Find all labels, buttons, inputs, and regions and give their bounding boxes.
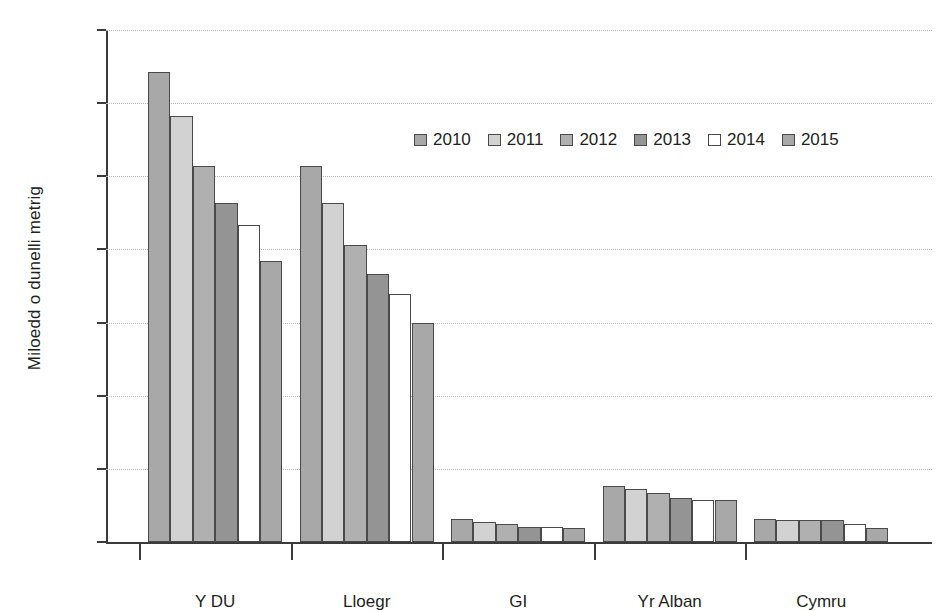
y-tick-mark [97, 322, 106, 324]
bar [300, 166, 322, 542]
y-axis-line [106, 30, 108, 542]
legend-swatch-icon [488, 134, 501, 146]
y-tick-mark [97, 102, 106, 104]
y-tick-mark [97, 175, 106, 177]
bar-chart: Miloedd o dunelli metrig 140001200010000… [0, 0, 938, 612]
legend-label: 2011 [507, 131, 544, 148]
legend-label: 2013 [653, 131, 691, 148]
x-axis-category-label: Yr Alban [638, 592, 702, 612]
y-axis-title: Miloedd o dunelli metrig [25, 118, 45, 438]
bar [866, 528, 888, 542]
bar [776, 520, 798, 542]
bar [322, 203, 344, 542]
x-axis-category-label: Lloegr [343, 592, 390, 612]
legend-item: 2010 [414, 131, 471, 148]
bar [754, 519, 776, 542]
bar [799, 520, 821, 542]
legend-swatch-icon [634, 134, 647, 146]
legend-label: 2010 [433, 131, 471, 148]
gridline [106, 30, 932, 31]
bar [215, 203, 237, 542]
legend-item: 2013 [634, 131, 691, 148]
legend-swatch-icon [414, 134, 427, 146]
legend-item: 2014 [708, 131, 765, 148]
x-axis-category-label: Cymru [796, 592, 846, 612]
y-tick-mark [97, 29, 106, 31]
legend-item: 2015 [782, 131, 839, 148]
bar [367, 274, 389, 542]
legend-swatch-icon [782, 134, 795, 146]
bar [692, 500, 714, 542]
x-tick-mark [442, 544, 444, 560]
bar [193, 166, 215, 542]
gridline [106, 103, 932, 104]
x-tick-mark [594, 544, 596, 560]
y-tick-mark [97, 395, 106, 397]
y-tick-mark [97, 248, 106, 250]
x-axis-category-label: GI [509, 592, 527, 612]
bar [647, 493, 669, 542]
x-axis-line [106, 542, 932, 544]
bar [670, 498, 692, 542]
bar [715, 500, 737, 542]
bar [238, 225, 260, 542]
bar [170, 116, 192, 542]
legend-label: 2014 [727, 131, 765, 148]
x-tick-mark [139, 544, 141, 560]
legend-label: 2015 [801, 131, 839, 148]
legend-swatch-icon [560, 134, 573, 146]
bar [518, 527, 540, 542]
x-tick-mark [291, 544, 293, 560]
y-tick-mark [97, 541, 106, 543]
bar [563, 528, 585, 542]
gridline [106, 176, 932, 177]
bar [821, 520, 843, 542]
legend: 201020112012201320142015 [414, 131, 839, 148]
bar [473, 522, 495, 542]
bar [625, 489, 647, 542]
bar [389, 294, 411, 542]
bar [412, 323, 434, 542]
bar [603, 486, 625, 542]
bar [541, 527, 563, 542]
plot-area: 14000120001000080006000400020000 Y DULlo… [106, 30, 932, 542]
bar [260, 261, 282, 542]
y-tick-mark [97, 468, 106, 470]
bar [344, 245, 366, 542]
bar [148, 72, 170, 542]
x-tick-mark [745, 544, 747, 560]
x-axis-category-label: Y DU [195, 592, 235, 612]
bar [496, 524, 518, 542]
legend-swatch-icon [708, 134, 721, 146]
bar [844, 524, 866, 542]
legend-item: 2012 [560, 131, 617, 148]
bar [451, 519, 473, 542]
legend-item: 2011 [488, 131, 544, 148]
legend-label: 2012 [579, 131, 617, 148]
